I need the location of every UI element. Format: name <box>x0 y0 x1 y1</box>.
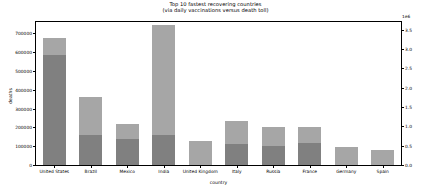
y-tick-mark-right <box>401 88 404 89</box>
y-tick-label-left: 500000 <box>15 68 32 73</box>
chart-title: Top 10 fastest recovering countries (via… <box>0 1 431 13</box>
x-tick-label: Mexico <box>120 169 135 174</box>
y-tick-label-right: 0.5 <box>405 143 412 148</box>
y-tick-mark-right <box>401 68 404 69</box>
x-tick-mark <box>273 165 274 168</box>
bar-group <box>262 127 285 165</box>
y-tick-label-left: 200000 <box>15 125 32 130</box>
bar-segment-deaths <box>298 143 321 165</box>
y-tick-label-right: 1.5 <box>405 105 412 110</box>
bar-segment-deaths <box>262 146 285 165</box>
y-tick-mark-left <box>33 33 36 34</box>
y-tick-mark-left <box>33 127 36 128</box>
y-tick-mark-right <box>401 30 404 31</box>
x-tick-mark <box>200 165 201 168</box>
bar-group <box>298 127 321 165</box>
bar-segment-deaths <box>225 144 248 165</box>
bar-segment-deaths <box>152 135 175 165</box>
bar-segment-vaccinations <box>371 150 394 165</box>
x-tick-label: Spain <box>377 169 389 174</box>
y-tick-mark-left <box>33 52 36 53</box>
bar-segment-vaccinations <box>298 127 321 143</box>
bar-segment-vaccinations <box>152 25 175 135</box>
y-tick-label-right: 2.0 <box>405 85 412 90</box>
bar-group <box>189 141 212 165</box>
plot-area <box>36 22 401 165</box>
x-tick-label: Italy <box>232 169 242 174</box>
bar-segment-vaccinations <box>116 124 139 139</box>
bar-segment-vaccinations <box>43 38 66 55</box>
bar-segment-vaccinations <box>79 97 102 135</box>
chart-title-line-2: (via daily vaccinations versus death tol… <box>0 7 431 13</box>
y-axis-label-left: deaths <box>8 88 13 104</box>
y-tick-label-left: 700000 <box>15 31 32 36</box>
y-tick-label-left: 600000 <box>15 50 32 55</box>
x-tick-label: United Kingdom <box>183 169 218 174</box>
y-tick-label-right: 3.0 <box>405 47 412 52</box>
bar-group <box>43 38 66 165</box>
chart-figure: Top 10 fastest recovering countries (via… <box>0 0 431 191</box>
bar-group <box>335 147 358 165</box>
y-tick-label-right: 0.0 <box>405 163 412 168</box>
y-tick-mark-right <box>401 107 404 108</box>
bar-group <box>79 97 102 165</box>
y-tick-mark-right <box>401 126 404 127</box>
y-tick-label-right: 1.0 <box>405 124 412 129</box>
bar-segment-deaths <box>79 135 102 165</box>
x-tick-label: India <box>158 169 169 174</box>
y-tick-label-left: 400000 <box>15 87 32 92</box>
bar-group <box>225 121 248 165</box>
x-tick-mark <box>127 165 128 168</box>
x-tick-mark <box>164 165 165 168</box>
y-tick-mark-right <box>401 146 404 147</box>
plot-axes: 0100000200000300000400000500000600000700… <box>35 21 402 166</box>
x-tick-mark <box>310 165 311 168</box>
x-tick-label: Germany <box>336 169 356 174</box>
bar-segment-deaths <box>116 139 139 165</box>
bar-segment-deaths <box>43 55 66 165</box>
bar-segment-vaccinations <box>189 141 212 165</box>
x-tick-label: United States <box>39 169 69 174</box>
bar-group <box>371 150 394 165</box>
y-axis-right-exponent: 1e6 <box>402 14 410 19</box>
y-tick-mark-left <box>33 71 36 72</box>
bar-group <box>116 124 139 165</box>
y-tick-mark-right <box>401 165 404 166</box>
y-tick-mark-right <box>401 49 404 50</box>
x-tick-mark <box>383 165 384 168</box>
bar-segment-vaccinations <box>262 127 285 146</box>
y-tick-label-left: 100000 <box>15 144 32 149</box>
y-tick-label-left: 300000 <box>15 106 32 111</box>
bar-segment-vaccinations <box>335 147 358 165</box>
x-tick-label: France <box>302 169 317 174</box>
y-tick-label-left: 0 <box>29 163 32 168</box>
x-tick-mark <box>346 165 347 168</box>
x-tick-label: Russia <box>266 169 280 174</box>
x-axis-label: country <box>35 180 402 185</box>
y-tick-mark-left <box>33 90 36 91</box>
bar-group <box>152 25 175 165</box>
x-tick-mark <box>237 165 238 168</box>
y-tick-label-right: 3.5 <box>405 27 412 32</box>
x-tick-label: Brazil <box>85 169 97 174</box>
x-tick-mark <box>91 165 92 168</box>
y-tick-mark-left <box>33 109 36 110</box>
y-tick-mark-left <box>33 165 36 166</box>
x-tick-mark <box>54 165 55 168</box>
bar-segment-vaccinations <box>225 121 248 144</box>
y-tick-mark-left <box>33 146 36 147</box>
y-tick-label-right: 2.5 <box>405 66 412 71</box>
